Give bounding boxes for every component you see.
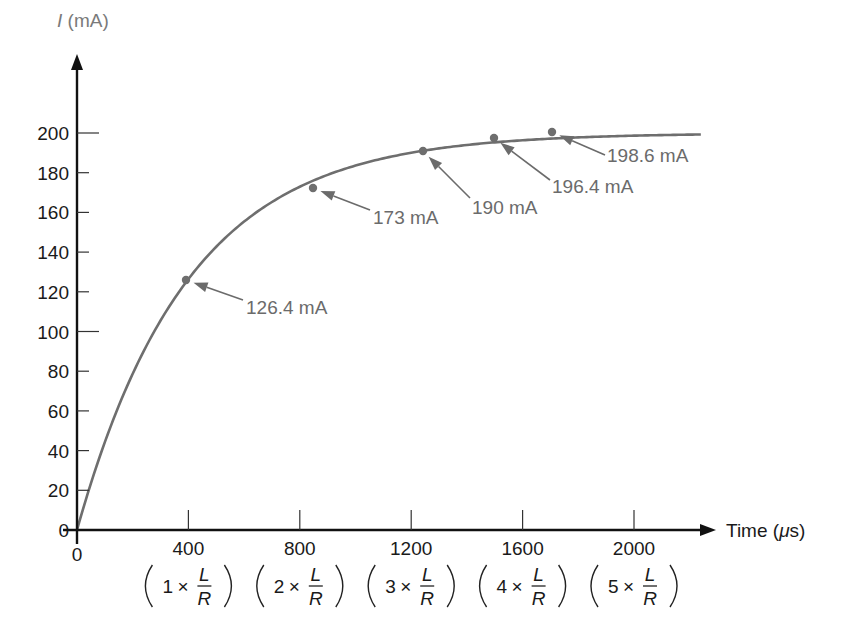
x-tick-sublabel-1: 1×LR bbox=[145, 564, 231, 609]
annotated-point: 173 mA bbox=[309, 184, 439, 228]
x-axis-arrow-icon bbox=[700, 524, 716, 536]
point-value-label: 198.6 mA bbox=[607, 145, 689, 166]
y-tick-label: 60 bbox=[48, 401, 69, 422]
times-sign: × bbox=[177, 576, 188, 597]
annotated-point: 126.4 mA bbox=[182, 276, 328, 318]
point-value-label: 126.4 mA bbox=[246, 297, 328, 318]
x-tick-label: 2000 bbox=[613, 538, 655, 559]
point-marker bbox=[182, 276, 190, 284]
x-tick-sublabel-2: 2×LR bbox=[257, 564, 343, 609]
point-marker bbox=[419, 147, 427, 155]
multiplier: 1 bbox=[162, 576, 173, 597]
y-tick-label: 140 bbox=[37, 242, 69, 263]
frac-denominator: R bbox=[420, 588, 434, 609]
frac-numerator: L bbox=[533, 564, 544, 585]
annotation-arrow-line bbox=[439, 167, 470, 198]
frac-numerator: L bbox=[422, 564, 433, 585]
point-value-label: 190 mA bbox=[472, 197, 538, 218]
annotation-arrow-line bbox=[512, 151, 550, 180]
x-tick-sublabel-3: 3×LR bbox=[368, 564, 454, 609]
point-value-label: 196.4 mA bbox=[552, 176, 634, 197]
point-marker bbox=[309, 184, 317, 192]
times-sign: × bbox=[400, 576, 411, 597]
times-sign: × bbox=[512, 576, 523, 597]
y-axis-title: I (mA) bbox=[57, 10, 109, 31]
frac-numerator: L bbox=[645, 564, 656, 585]
x-axis-title: Time (μs) bbox=[726, 520, 805, 541]
y-tick-label: 40 bbox=[48, 441, 69, 462]
times-sign: × bbox=[623, 576, 634, 597]
right-paren bbox=[559, 565, 566, 607]
annotation-arrow-line bbox=[572, 141, 605, 155]
frac-denominator: R bbox=[198, 588, 212, 609]
right-paren bbox=[336, 565, 343, 607]
y-axis-arrow-icon bbox=[71, 54, 83, 70]
left-paren bbox=[591, 565, 598, 607]
arrowhead-icon bbox=[320, 191, 335, 201]
y-tick-label: 120 bbox=[37, 282, 69, 303]
y-tick-label: 180 bbox=[37, 163, 69, 184]
rl-current-chart: 020406080100120140160180200 04001×LR8002… bbox=[0, 0, 845, 639]
multiplier: 3 bbox=[385, 576, 396, 597]
right-paren bbox=[224, 565, 231, 607]
annotated-point: 198.6 mA bbox=[548, 128, 689, 166]
left-paren bbox=[368, 565, 375, 607]
multiplier: 5 bbox=[608, 576, 619, 597]
y-tick-label: 200 bbox=[37, 123, 69, 144]
y-tick-label: 100 bbox=[37, 322, 69, 343]
y-tick-label: 160 bbox=[37, 202, 69, 223]
annotation-arrow-line bbox=[207, 287, 243, 300]
arrowhead-icon bbox=[194, 283, 209, 292]
left-paren bbox=[480, 565, 487, 607]
y-tick-label: 20 bbox=[48, 480, 69, 501]
frac-numerator: L bbox=[311, 564, 322, 585]
left-paren bbox=[145, 565, 152, 607]
axes bbox=[63, 54, 716, 544]
multiplier: 2 bbox=[274, 576, 285, 597]
x-tick-label: 1200 bbox=[390, 538, 432, 559]
frac-numerator: L bbox=[199, 564, 210, 585]
y-tick-label: 0 bbox=[58, 520, 69, 541]
x-axis-ticks: 04001×LR8002×LR12003×LR16004×LR20005×LR bbox=[72, 510, 677, 609]
point-value-label: 173 mA bbox=[373, 207, 439, 228]
right-paren bbox=[447, 565, 454, 607]
frac-denominator: R bbox=[309, 588, 323, 609]
arrowhead-icon bbox=[559, 135, 574, 145]
times-sign: × bbox=[289, 576, 300, 597]
data-points: 126.4 mA173 mA190 mA196.4 mA198.6 mA bbox=[182, 128, 689, 318]
left-paren bbox=[257, 565, 264, 607]
y-axis-ticks: 020406080100120140160180200 bbox=[37, 123, 99, 541]
frac-denominator: R bbox=[532, 588, 546, 609]
frac-denominator: R bbox=[643, 588, 657, 609]
x-tick-label: 800 bbox=[284, 538, 316, 559]
x-tick-label: 400 bbox=[173, 538, 205, 559]
x-tick-label: 0 bbox=[72, 544, 83, 565]
x-tick-sublabel-5: 5×LR bbox=[591, 564, 677, 609]
right-paren bbox=[670, 565, 677, 607]
multiplier: 4 bbox=[497, 576, 508, 597]
point-marker bbox=[548, 128, 556, 136]
x-tick-label: 1600 bbox=[501, 538, 543, 559]
y-tick-label: 80 bbox=[48, 361, 69, 382]
x-tick-sublabel-4: 4×LR bbox=[480, 564, 566, 609]
point-marker bbox=[490, 134, 498, 142]
arrowhead-icon bbox=[500, 143, 514, 155]
annotation-arrow-line bbox=[334, 196, 370, 210]
